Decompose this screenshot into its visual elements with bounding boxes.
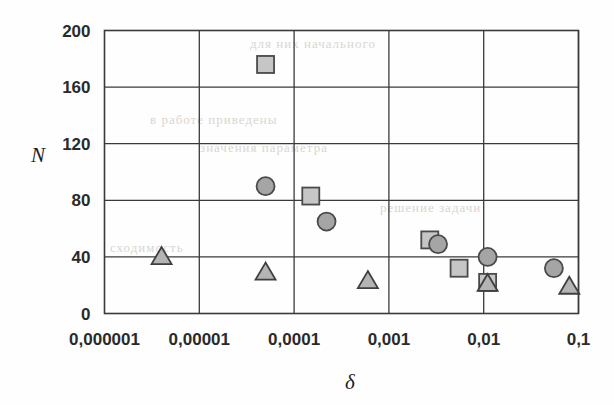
x-axis-title: δ	[345, 370, 356, 394]
scatter-plot: 04080120160200 0,0000010,000010,00010,00…	[0, 0, 614, 405]
data-point-square	[302, 188, 319, 205]
data-point-circle	[429, 235, 447, 253]
y-tick-label: 0	[81, 305, 90, 324]
data-point-triangle	[152, 247, 172, 264]
y-axis-title: N	[30, 143, 46, 167]
data-point-triangle	[358, 271, 378, 288]
x-tick-label: 0,001	[368, 330, 411, 349]
x-tick-label: 0,01	[467, 330, 500, 349]
data-point-circle	[545, 259, 563, 277]
x-tick-label: 0,000001	[69, 330, 140, 349]
y-tick-label: 120	[62, 135, 90, 154]
x-axis: 0,0000010,000010,00010,0010,010,1	[69, 31, 590, 349]
data-point-square	[451, 260, 468, 277]
data-point-circle	[318, 213, 336, 231]
plot-frame	[105, 31, 579, 314]
y-axis: 04080120160200	[62, 22, 578, 324]
data-point-circle	[257, 177, 275, 195]
x-tick-label: 0,1	[567, 330, 591, 349]
y-tick-label: 40	[72, 248, 91, 267]
data-point-triangle	[256, 263, 276, 280]
y-tick-label: 160	[62, 78, 90, 97]
data-series-layer	[152, 56, 580, 294]
series-squares	[257, 56, 496, 291]
chart-figure: для них начальногов работе приведенызнач…	[0, 0, 614, 405]
y-tick-label: 200	[62, 22, 90, 41]
data-point-circle	[479, 248, 497, 266]
y-tick-label: 80	[72, 191, 91, 210]
x-tick-label: 0,00001	[169, 330, 230, 349]
data-point-triangle	[559, 277, 579, 294]
data-point-square	[257, 56, 274, 73]
series-triangles	[152, 247, 580, 294]
x-tick-label: 0,0001	[268, 330, 320, 349]
